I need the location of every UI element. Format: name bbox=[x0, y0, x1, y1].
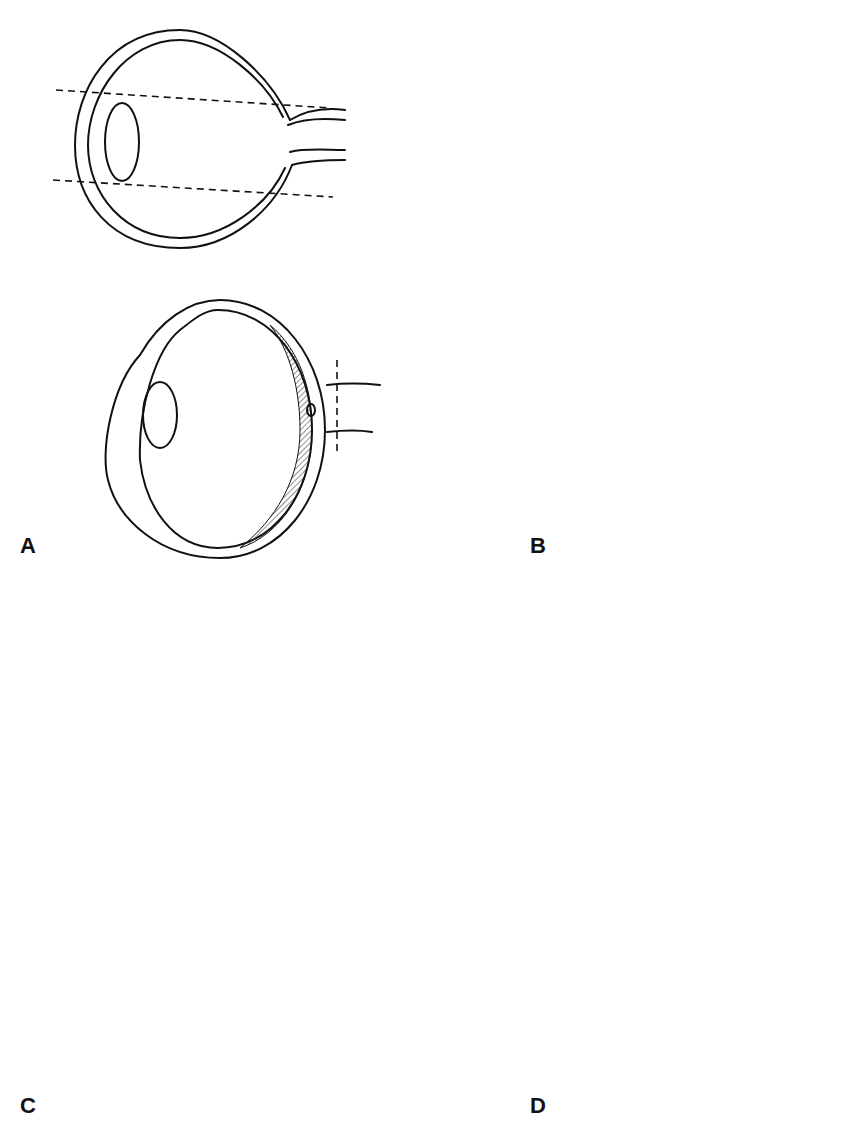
panel-a-top-eye bbox=[53, 30, 345, 248]
panel-label-d: D bbox=[530, 1093, 546, 1119]
panel-label-b: B bbox=[530, 533, 546, 559]
panel-a-bottom-eye bbox=[106, 300, 380, 558]
panel-label-a: A bbox=[20, 533, 36, 559]
figure-canvas bbox=[0, 0, 857, 1128]
panel-label-c: C bbox=[20, 1093, 36, 1119]
